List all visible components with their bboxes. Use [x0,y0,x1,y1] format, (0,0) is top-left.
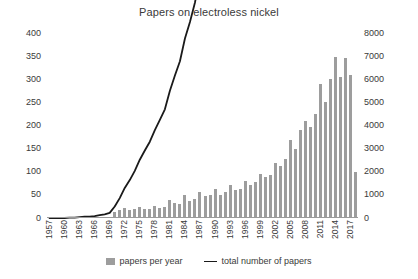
y-axis-tick-right: 5000 [364,98,384,107]
y-axis-tick-left: 0 [36,214,41,223]
x-axis-tick-label: 2017 [346,220,354,239]
x-axis-tick-label: 1981 [165,220,173,239]
x-axis-tick-label: 2011 [316,220,324,238]
x-axis-tick-label: 1990 [211,220,219,239]
x-axis-tick-label: 1969 [105,220,113,239]
y-axis-tick-right: 6000 [364,75,384,84]
legend-label-papers-per-year: papers per year [119,256,182,266]
x-axis-tick-label: 1993 [226,220,234,239]
y-axis-tick-left: 100 [26,167,41,176]
x-axis-tick-label: 1987 [195,220,203,239]
y-axis-tick-right: 0 [364,214,369,223]
legend-label-total-number-of-papers: total number of papers [221,256,311,266]
y-axis-tick-right: 1000 [364,190,384,199]
chart-title: Papers on electroless nickel [0,6,418,18]
x-axis-tick-label: 1957 [45,220,53,239]
x-axis-tick-label: 2008 [301,220,309,239]
chart-legend: papers per year total number of papers [0,256,418,266]
y-axis-tick-right: 8000 [364,29,384,38]
x-axis-tick-label: 1963 [75,220,83,239]
x-axis-tick-label: 1978 [150,220,158,239]
line-swatch-icon [204,261,217,262]
y-axis-tick-left: 200 [26,121,41,130]
x-axis-tick-label: 1996 [241,220,249,239]
y-axis-tick-right: 4000 [364,121,384,130]
y-axis-tick-left: 400 [26,29,41,38]
x-axis-tick-label: 1960 [60,220,68,239]
x-axis-tick-label: 1966 [90,220,98,239]
x-axis-tick-label: 2005 [286,220,294,239]
y-axis-tick-right: 7000 [364,52,384,61]
bar-swatch-icon [106,258,115,265]
x-axis-tick-label: 1999 [256,220,264,239]
x-axis-tick-label: 2014 [331,220,339,239]
y-axis-tick-left: 50 [31,190,41,199]
x-axis-tick-label: 1984 [180,220,188,239]
chart-container: Papers on electroless nickel 05010015020… [0,0,418,279]
y-axis-tick-left: 350 [26,52,41,61]
x-axis-tick-label: 1972 [120,220,128,239]
plot-area: 0501001502002503003504000100020003000400… [47,33,358,218]
x-axis-tick-label: 1975 [135,220,143,239]
legend-item-total-number-of-papers: total number of papers [204,256,311,266]
legend-item-papers-per-year: papers per year [106,256,182,266]
y-axis-tick-right: 2000 [364,167,384,176]
y-axis-tick-left: 250 [26,98,41,107]
x-axis-tick-label: 2002 [271,220,279,239]
line-series-total-number-of-papers [47,33,358,218]
y-axis-tick-right: 3000 [364,144,384,153]
x-axis-tick-labels: 1957196019631966196919721975197819811984… [47,220,358,254]
x-axis-line [47,217,358,218]
y-axis-tick-left: 150 [26,144,41,153]
total-line-path [50,0,356,218]
y-axis-tick-left: 300 [26,75,41,84]
